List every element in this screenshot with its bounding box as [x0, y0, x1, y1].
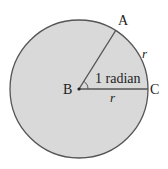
label-arc-r: r [142, 46, 148, 61]
radian-diagram: A B C r r 1 radian [0, 0, 168, 169]
label-a: A [118, 13, 129, 28]
label-b: B [63, 82, 72, 97]
label-angle: 1 radian [95, 71, 140, 86]
center-point [77, 87, 80, 90]
label-c: C [150, 82, 159, 97]
